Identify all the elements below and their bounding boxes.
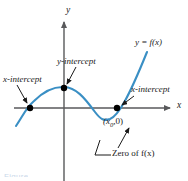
label-axis-y: y — [66, 6, 70, 16]
leader-arrow-x-intercept-left — [17, 85, 27, 103]
label-zero-of-f: Zero of f(x) — [112, 149, 154, 158]
label-axis-x: x — [177, 101, 181, 111]
label-x-intercept-right: x-intercept — [131, 85, 170, 94]
label-zero-coordinates: (x0,0) — [103, 117, 123, 128]
point-y-intercept — [61, 85, 67, 91]
point-label-prefix: (x — [103, 116, 110, 126]
figure-container: x-intercept y-intercept y = f(x) x-inter… — [0, 0, 188, 181]
leader-elbow-zero — [95, 140, 111, 155]
caption-fragment: Figure — [4, 172, 28, 177]
leader-arrow-y-intercept — [67, 67, 76, 84]
label-function: y = f(x) — [135, 38, 162, 47]
point-label-suffix: ,0) — [113, 116, 123, 126]
point-x-intercept-right — [114, 105, 120, 111]
label-x-intercept-left: x-intercept — [3, 75, 42, 84]
point-x-intercept-left — [27, 105, 33, 111]
leader-arrow-zero — [118, 128, 129, 148]
label-y-intercept: y-intercept — [57, 57, 96, 66]
